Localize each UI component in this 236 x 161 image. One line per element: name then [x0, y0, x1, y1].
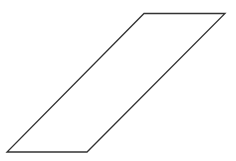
- diagram-canvas: [0, 0, 236, 161]
- parallelogram-shape: [7, 14, 225, 153]
